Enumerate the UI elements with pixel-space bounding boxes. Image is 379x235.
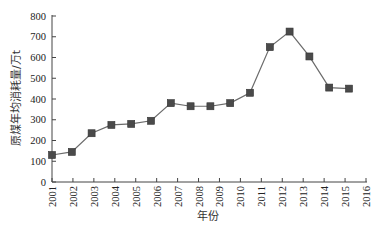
data-point-marker	[128, 120, 135, 127]
data-series	[49, 28, 353, 158]
y-axis-title: 原煤年均消耗量/万t	[9, 49, 23, 146]
y-tick-label: 800	[30, 11, 46, 22]
data-point-marker	[148, 117, 155, 124]
x-tick-label: 2013	[298, 186, 309, 207]
x-tick-label: 2011	[256, 186, 267, 207]
data-point-marker	[227, 100, 234, 107]
x-tick-label: 2003	[89, 186, 100, 207]
y-tick-label: 500	[30, 73, 46, 84]
x-tick-label: 2012	[277, 186, 288, 207]
x-tick-label: 2002	[68, 186, 79, 207]
y-tick-label: 600	[30, 52, 46, 63]
data-point-marker	[326, 84, 333, 91]
data-point-marker	[88, 130, 95, 137]
line-chart: 0100200300400500600700800 20012002200320…	[0, 0, 379, 235]
y-tick-label: 200	[30, 135, 46, 146]
x-tick-label: 2010	[235, 186, 246, 207]
data-point-marker	[286, 28, 293, 35]
data-point-marker	[266, 44, 273, 51]
data-point-marker	[187, 103, 194, 110]
x-axis: 2001200220032004200520062007200820092010…	[47, 178, 372, 207]
y-tick-label: 400	[30, 94, 46, 105]
data-point-marker	[306, 53, 313, 60]
x-axis-title: 年份	[197, 209, 219, 223]
x-tick-label: 2004	[110, 185, 121, 207]
x-tick-label: 2009	[214, 186, 225, 207]
data-point-marker	[68, 148, 75, 155]
data-point-marker	[247, 89, 254, 96]
y-axis: 0100200300400500600700800	[30, 11, 56, 188]
series-line	[52, 32, 349, 155]
x-tick-label: 2007	[173, 186, 184, 207]
y-tick-label: 700	[30, 31, 46, 42]
y-tick-label: 100	[30, 156, 46, 167]
data-point-marker	[207, 103, 214, 110]
x-tick-label: 2014	[319, 185, 330, 207]
y-tick-label: 300	[30, 114, 46, 125]
x-tick-label: 2016	[361, 186, 372, 207]
data-point-marker	[167, 100, 174, 107]
x-tick-label: 2015	[340, 186, 351, 207]
data-point-marker	[346, 85, 353, 92]
x-tick-label: 2005	[131, 186, 142, 207]
data-point-marker	[49, 152, 56, 159]
x-tick-label: 2001	[47, 186, 58, 207]
x-tick-label: 2006	[152, 186, 163, 207]
data-point-marker	[108, 121, 115, 128]
x-tick-label: 2008	[194, 186, 205, 207]
y-tick-label: 0	[41, 177, 46, 188]
